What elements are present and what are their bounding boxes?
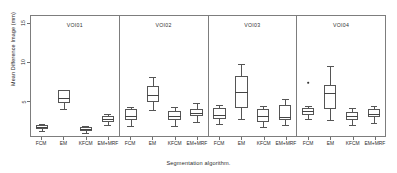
x-tick: EM	[52, 137, 74, 157]
x-tick-label: EM	[238, 141, 245, 146]
plot-area	[31, 16, 119, 136]
median-line	[368, 114, 380, 115]
boxplot-fcm[interactable]	[213, 16, 225, 136]
cap-lower	[193, 122, 200, 123]
median-line	[190, 113, 202, 114]
cap-lower	[171, 126, 178, 127]
x-tick-mark	[308, 137, 309, 140]
cap-lower	[260, 127, 267, 128]
x-tick-mark	[375, 137, 376, 140]
x-tick-label: EM	[149, 141, 156, 146]
median-line	[102, 119, 114, 120]
x-axis: FCMEMKFCMEM+MRFFCMEMKFCMEM+MRFFCMEMKFCME…	[30, 137, 386, 157]
x-tick: EM+MRF	[97, 137, 119, 157]
x-tick: FCM	[208, 137, 230, 157]
boxplot-em[interactable]	[147, 16, 159, 136]
x-tick-mark	[264, 137, 265, 140]
cap-lower	[82, 133, 89, 134]
x-tick-group: FCMEMKFCMEM+MRF	[297, 137, 386, 157]
cap-lower	[371, 123, 378, 124]
x-tick-mark	[108, 137, 109, 140]
median-line	[125, 116, 137, 117]
median-line	[80, 129, 92, 130]
cap-upper	[349, 108, 356, 109]
plot-area	[209, 16, 297, 136]
x-tick-label: EM	[60, 141, 67, 146]
x-tick: KFCM	[75, 137, 97, 157]
x-tick: FCM	[30, 137, 52, 157]
panel-grid: VOI01VOI02VOI03VOI04	[30, 15, 386, 137]
plot-area	[120, 16, 208, 136]
boxplot-figure: Mean Difference Image (mm) Segmentation …	[0, 0, 397, 173]
box-iqr	[125, 109, 137, 120]
cap-upper	[371, 106, 378, 107]
median-line	[235, 92, 247, 93]
whisker-lower	[330, 109, 331, 120]
x-tick-label: KFCM	[168, 141, 182, 146]
outlier-point	[307, 82, 309, 84]
x-tick-label: KFCM	[346, 141, 360, 146]
x-tick: EM	[230, 137, 252, 157]
boxplot-em-mrf[interactable]	[368, 16, 380, 136]
x-tick: KFCM	[164, 137, 186, 157]
cap-upper	[193, 103, 200, 104]
panel-voi03: VOI03	[208, 15, 297, 137]
cap-lower	[327, 120, 334, 121]
x-axis-title: Segmentation algorithm.	[0, 160, 397, 166]
boxplot-fcm[interactable]	[36, 16, 48, 136]
whisker-lower	[241, 108, 242, 119]
x-tick: EM+MRF	[364, 137, 386, 157]
boxplot-em-mrf[interactable]	[190, 16, 202, 136]
x-tick: EM+MRF	[186, 137, 208, 157]
x-tick-mark	[219, 137, 220, 140]
x-tick-label: EM+MRF	[97, 141, 118, 146]
x-tick-label: EM+MRF	[364, 141, 385, 146]
median-line	[302, 111, 314, 112]
median-line	[279, 117, 291, 118]
cap-upper	[327, 66, 334, 67]
median-line	[58, 98, 70, 99]
boxplot-kfcm[interactable]	[257, 16, 269, 136]
x-tick: EM	[319, 137, 341, 157]
x-tick-mark	[197, 137, 198, 140]
boxplot-fcm[interactable]	[302, 16, 314, 136]
y-tick: 15	[20, 20, 30, 26]
x-tick-label: FCM	[36, 141, 47, 146]
boxplot-em[interactable]	[58, 16, 70, 136]
cap-lower	[60, 109, 67, 110]
cap-upper	[216, 105, 223, 106]
cap-lower	[104, 125, 111, 126]
x-tick: KFCM	[342, 137, 364, 157]
median-line	[36, 127, 48, 128]
boxplot-fcm[interactable]	[125, 16, 137, 136]
x-tick-mark	[152, 137, 153, 140]
boxplot-em[interactable]	[324, 16, 336, 136]
cap-upper	[305, 106, 312, 107]
x-tick-mark	[41, 137, 42, 140]
boxplot-em-mrf[interactable]	[102, 16, 114, 136]
x-tick-label: KFCM	[79, 141, 93, 146]
x-tick-label: KFCM	[257, 141, 271, 146]
panel-voi02: VOI02	[119, 15, 208, 137]
x-tick-label: FCM	[303, 141, 314, 146]
cap-upper	[171, 107, 178, 108]
boxplot-kfcm[interactable]	[80, 16, 92, 136]
y-tick: 10	[20, 59, 30, 65]
plot-area	[297, 16, 385, 136]
y-axis-title: Mean Difference Image (mm)	[10, 0, 22, 109]
x-tick-group: FCMEMKFCMEM+MRF	[208, 137, 297, 157]
boxplot-em[interactable]	[235, 16, 247, 136]
x-tick-mark	[63, 137, 64, 140]
whisker-lower	[131, 120, 132, 127]
boxplot-kfcm[interactable]	[168, 16, 180, 136]
whisker-upper	[153, 77, 154, 86]
x-tick-mark	[353, 137, 354, 140]
boxplot-kfcm[interactable]	[346, 16, 358, 136]
cap-lower	[349, 125, 356, 126]
x-tick-label: FCM	[214, 141, 225, 146]
cap-lower	[127, 126, 134, 127]
cap-lower	[282, 125, 289, 126]
whisker-upper	[330, 66, 331, 84]
boxplot-em-mrf[interactable]	[279, 16, 291, 136]
y-tick-label: 5	[22, 100, 28, 103]
